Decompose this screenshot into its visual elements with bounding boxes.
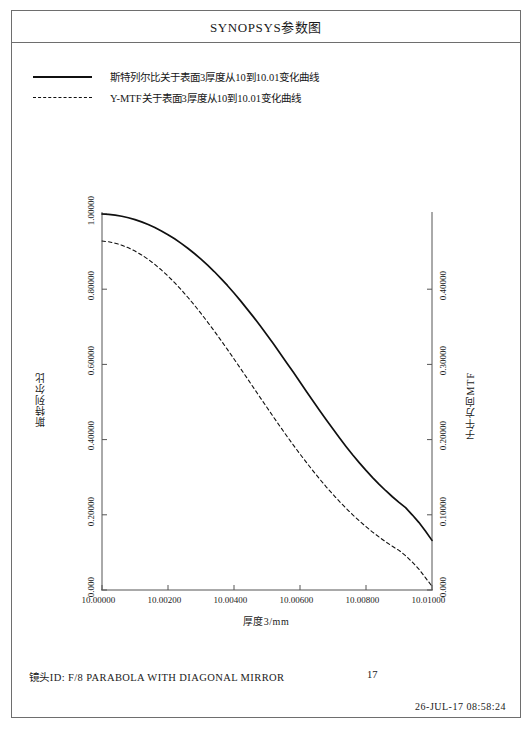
axis-tick-label: 0.000 <box>86 577 96 597</box>
axis-tick-label: 0.80000 <box>86 271 96 300</box>
curve-strehl <box>102 214 432 540</box>
synopsys-plot-page: SYNOPSYS参数图 斯特列尔比关于表面3厚度从10到10.01变化曲线 Y-… <box>0 0 532 735</box>
axis-tick-label: 0.40000 <box>86 421 96 450</box>
y-axis-title: 斯特列尔比 <box>33 372 48 427</box>
axis-tick-label: 0.10000 <box>438 497 448 526</box>
axis-tick-label: 1.00000 <box>86 196 96 225</box>
axis-tick-label: 0.20000 <box>86 497 96 526</box>
axis-tick-label: 0.30000 <box>438 346 448 375</box>
axis-tick-label: 10.00400 <box>214 595 248 605</box>
axis-tick-label: 0.40000 <box>438 271 448 300</box>
x-axis-title: 厚度3/mm <box>0 613 532 628</box>
axis-tick-label: 0.000 <box>438 577 448 597</box>
axis-tick-label: 0.20000 <box>438 421 448 450</box>
axis-tick-label: 10.00800 <box>346 595 380 605</box>
axis-tick-label: 0.60000 <box>86 346 96 375</box>
axis-tick-label: 10.00200 <box>148 595 182 605</box>
y2-axis-title: 子午方向MTF <box>463 372 478 440</box>
axis-tick-label: 10.00600 <box>280 595 314 605</box>
curve-ymtf <box>102 241 432 586</box>
